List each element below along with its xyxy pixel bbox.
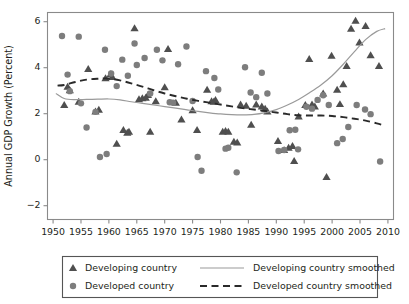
- data-point-circle: [259, 70, 265, 76]
- data-point-circle: [253, 94, 259, 100]
- data-point-circle: [242, 64, 248, 70]
- data-point-circle: [345, 124, 351, 130]
- x-tick-label: 1985: [236, 226, 260, 237]
- y-tick-label: 6: [35, 15, 41, 26]
- data-point-circle: [314, 97, 320, 103]
- data-point-circle: [64, 71, 70, 77]
- data-point-circle: [170, 99, 176, 105]
- x-tick-label: 2000: [320, 226, 344, 237]
- data-point-circle: [92, 109, 98, 115]
- smoothed-line-developed: [58, 78, 384, 125]
- data-point-circle: [102, 47, 108, 53]
- data-point-circle: [59, 33, 65, 39]
- data-point-circle: [175, 61, 181, 67]
- data-point-circle: [233, 169, 239, 175]
- data-point-triangle: [146, 128, 154, 135]
- data-point-triangle: [113, 140, 121, 147]
- data-point-circle: [353, 102, 359, 108]
- data-point-triangle: [336, 100, 344, 107]
- data-point-circle: [287, 127, 293, 133]
- data-point-triangle: [327, 52, 335, 59]
- y-axis-ticks: −20246: [27, 15, 48, 210]
- y-tick-label: 0: [35, 153, 41, 164]
- data-point-triangle: [84, 65, 92, 72]
- smoothed-line-developing: [56, 29, 385, 115]
- chart-legend: Developing countryDeveloping country smo…: [63, 257, 395, 298]
- legend-circle-icon: [70, 283, 76, 289]
- x-tick-label: 2010: [376, 226, 400, 237]
- data-point-triangle: [152, 97, 160, 104]
- data-point-triangle: [367, 51, 375, 58]
- data-point-circle: [147, 90, 153, 96]
- data-point-circle: [281, 147, 287, 153]
- data-point-circle: [334, 140, 340, 146]
- data-point-triangle: [60, 101, 68, 108]
- y-tick-label: −2: [27, 199, 41, 210]
- x-tick-label: 1970: [153, 226, 177, 237]
- data-point-circle: [326, 102, 332, 108]
- data-point-triangle: [164, 45, 172, 52]
- y-tick-label: 4: [35, 61, 41, 72]
- data-point-circle: [194, 154, 200, 160]
- legend-label: Developed country: [85, 280, 175, 291]
- data-point-circle: [215, 86, 221, 92]
- data-point-circle: [340, 136, 346, 142]
- data-point-triangle: [355, 39, 363, 46]
- data-point-triangle: [375, 62, 383, 69]
- data-point-circle: [295, 146, 301, 152]
- data-point-circle: [97, 154, 103, 160]
- x-tick-label: 1960: [97, 226, 121, 237]
- x-tick-label: 1975: [181, 226, 205, 237]
- data-point-triangle: [193, 126, 201, 133]
- data-point-circle: [108, 70, 114, 76]
- legend-item[interactable]: Developed country: [70, 280, 175, 291]
- data-point-circle: [154, 47, 160, 53]
- data-point-circle: [183, 43, 189, 49]
- data-point-circle: [103, 151, 109, 157]
- data-point-circle: [125, 73, 131, 79]
- data-point-triangle: [361, 22, 369, 29]
- data-point-circle: [76, 33, 82, 39]
- chart-canvas: −20246 195019551960196519701975198019851…: [0, 0, 409, 304]
- data-point-circle: [247, 89, 253, 95]
- data-point-circle: [78, 100, 84, 106]
- data-point-circle: [320, 92, 326, 98]
- data-series-layer: [59, 17, 383, 180]
- legend-label: Developing country smoothed: [253, 262, 395, 273]
- data-point-circle: [303, 104, 309, 110]
- data-point-triangle: [161, 83, 169, 90]
- data-point-triangle: [322, 173, 330, 180]
- gdp-growth-scatter-figure: −20246 195019551960196519701975198019851…: [0, 0, 409, 304]
- data-point-triangle: [177, 116, 185, 123]
- data-point-circle: [83, 124, 89, 130]
- data-point-triangle: [339, 80, 347, 87]
- data-point-circle: [225, 145, 231, 151]
- y-tick-label: 2: [35, 107, 41, 118]
- legend-label: Developed country smoothed: [253, 280, 392, 291]
- x-tick-label: 1965: [125, 226, 149, 237]
- data-point-circle: [264, 90, 270, 96]
- x-tick-label: 1950: [41, 226, 65, 237]
- data-point-circle: [114, 83, 120, 89]
- x-tick-label: 1980: [209, 226, 233, 237]
- data-point-triangle: [274, 137, 282, 144]
- data-point-triangle: [347, 25, 355, 32]
- data-point-triangle: [247, 121, 255, 128]
- data-point-circle: [275, 148, 281, 154]
- data-point-circle: [377, 158, 383, 164]
- data-point-circle: [367, 111, 373, 117]
- data-point-circle: [198, 168, 204, 174]
- y-axis-title: Annual GDP Growth (Percent): [3, 45, 14, 186]
- data-point-triangle: [351, 17, 359, 24]
- data-point-triangle: [305, 55, 313, 62]
- x-axis-ticks: 1950195519601965197019751980198519901995…: [41, 220, 400, 237]
- data-point-circle: [203, 68, 209, 74]
- data-point-circle: [362, 106, 368, 112]
- data-point-circle: [211, 75, 217, 81]
- x-tick-label: 2005: [348, 226, 372, 237]
- legend-item[interactable]: Developing country: [69, 262, 177, 273]
- data-point-circle: [131, 40, 137, 46]
- data-point-circle: [141, 55, 147, 61]
- data-point-triangle: [130, 24, 138, 31]
- x-tick-label: 1995: [292, 226, 316, 237]
